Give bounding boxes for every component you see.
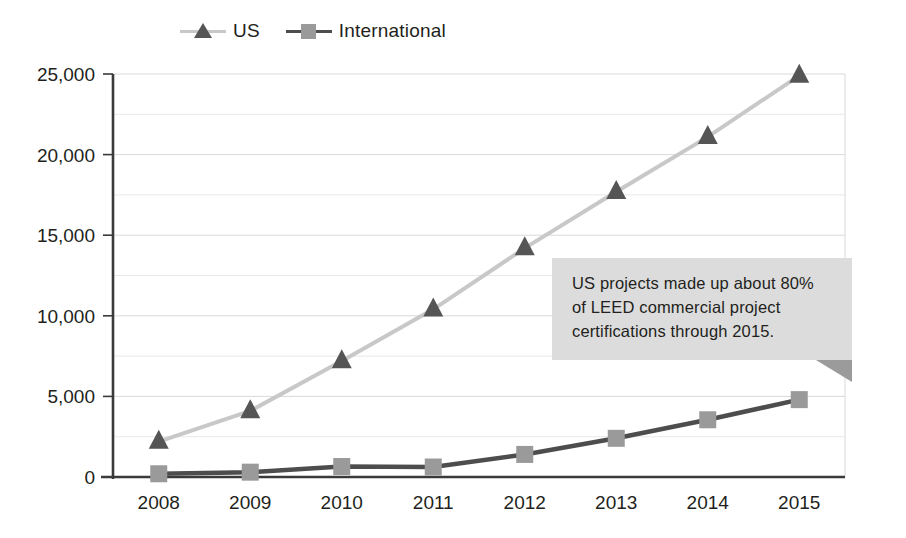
data-point-international-2008[interactable] <box>150 465 167 482</box>
x-tick-label-2010: 2010 <box>321 492 363 513</box>
callout-fold-icon <box>816 360 852 382</box>
annotation-line-1: US projects made up about 80% <box>572 272 836 296</box>
y-tick-label-25000: 25,000 <box>37 64 95 85</box>
x-tick-label-2009: 2009 <box>229 492 271 513</box>
x-tick-label-2014: 2014 <box>687 492 730 513</box>
y-tick-label-5000: 5,000 <box>47 386 95 407</box>
data-point-international-2013[interactable] <box>608 430 625 447</box>
data-point-international-2009[interactable] <box>242 464 259 481</box>
x-tick-label-2015: 2015 <box>778 492 820 513</box>
chart-figure: US International 05,00010,00015,00020,00… <box>0 0 906 538</box>
data-point-us-2015[interactable] <box>789 64 809 83</box>
y-tick-label-0: 0 <box>84 467 95 488</box>
annotation-callout: US projects made up about 80% of LEED co… <box>552 258 852 360</box>
annotation-line-3: certifications through 2015. <box>572 320 836 344</box>
data-point-international-2011[interactable] <box>425 459 442 476</box>
y-tick-label-10000: 10,000 <box>37 306 95 327</box>
x-tick-label-2013: 2013 <box>595 492 637 513</box>
data-point-international-2010[interactable] <box>333 458 350 475</box>
data-point-international-2014[interactable] <box>699 411 716 428</box>
y-tick-label-15000: 15,000 <box>37 225 95 246</box>
y-tick-label-20000: 20,000 <box>37 145 95 166</box>
x-tick-label-2008: 2008 <box>138 492 180 513</box>
annotation-line-2: of LEED commercial project <box>572 296 836 320</box>
data-point-international-2012[interactable] <box>516 446 533 463</box>
data-point-international-2015[interactable] <box>791 391 808 408</box>
x-tick-label-2012: 2012 <box>504 492 546 513</box>
x-tick-label-2011: 2011 <box>413 492 454 513</box>
